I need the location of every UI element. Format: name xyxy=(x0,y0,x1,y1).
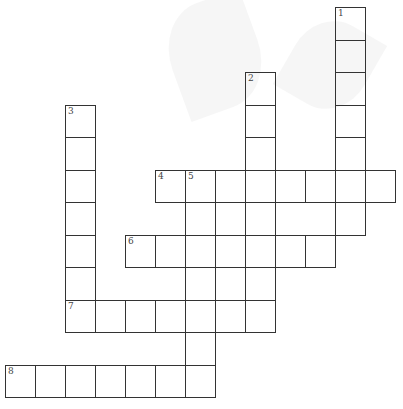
crossword-cell[interactable] xyxy=(245,170,276,204)
crossword-cell[interactable] xyxy=(155,235,186,269)
clue-number: 1 xyxy=(338,9,344,18)
crossword-cell[interactable] xyxy=(245,202,276,236)
crossword-cell[interactable] xyxy=(275,235,306,269)
crossword-cell[interactable] xyxy=(185,332,216,366)
crossword-cell[interactable] xyxy=(95,300,126,334)
crossword-cell[interactable] xyxy=(245,300,276,334)
crossword-cell[interactable] xyxy=(155,300,186,334)
crossword-cell[interactable] xyxy=(155,365,186,399)
clue-number: 3 xyxy=(68,107,74,116)
crossword-cell[interactable] xyxy=(215,300,246,334)
crossword-cell[interactable] xyxy=(335,105,366,139)
crossword-cell[interactable]: 5 xyxy=(185,170,216,204)
crossword-cell[interactable] xyxy=(335,40,366,74)
crossword-cell[interactable] xyxy=(245,105,276,139)
crossword-cell[interactable]: 2 xyxy=(245,72,276,106)
crossword-cell[interactable] xyxy=(365,170,396,204)
crossword-cell[interactable] xyxy=(245,235,276,269)
crossword-cell[interactable] xyxy=(35,365,66,399)
crossword-cell[interactable] xyxy=(245,137,276,171)
crossword-cell[interactable]: 8 xyxy=(5,365,36,399)
crossword-cell[interactable] xyxy=(125,300,156,334)
clue-number: 8 xyxy=(8,367,14,376)
crossword-cell[interactable]: 4 xyxy=(155,170,186,204)
crossword-grid: 12374568 xyxy=(0,0,403,409)
crossword-cell[interactable] xyxy=(305,170,336,204)
clue-number: 2 xyxy=(248,74,254,83)
crossword-cell[interactable] xyxy=(305,235,336,269)
crossword-cell[interactable] xyxy=(65,235,96,269)
crossword-cell[interactable] xyxy=(125,365,156,399)
crossword-cell[interactable] xyxy=(65,365,96,399)
crossword-cell[interactable] xyxy=(215,235,246,269)
crossword-cell[interactable] xyxy=(335,170,366,204)
clue-number: 6 xyxy=(128,237,134,246)
crossword-cell[interactable]: 1 xyxy=(335,7,366,41)
crossword-cell[interactable] xyxy=(95,365,126,399)
crossword-cell[interactable]: 6 xyxy=(125,235,156,269)
crossword-cell[interactable] xyxy=(185,267,216,301)
crossword-cell[interactable] xyxy=(65,267,96,301)
crossword-cell[interactable] xyxy=(335,137,366,171)
clue-number: 5 xyxy=(188,172,194,181)
clue-number: 7 xyxy=(68,302,74,311)
crossword-cell[interactable] xyxy=(185,202,216,236)
crossword-cell[interactable] xyxy=(185,300,216,334)
crossword-cell[interactable] xyxy=(335,72,366,106)
crossword-cell[interactable]: 7 xyxy=(65,300,96,334)
crossword-cell[interactable] xyxy=(275,170,306,204)
crossword-cell[interactable] xyxy=(185,235,216,269)
crossword-cell[interactable] xyxy=(245,267,276,301)
crossword-cell[interactable] xyxy=(335,202,366,236)
crossword-cell[interactable] xyxy=(215,170,246,204)
crossword-cell[interactable] xyxy=(65,202,96,236)
crossword-cell[interactable] xyxy=(65,170,96,204)
crossword-cell[interactable] xyxy=(65,137,96,171)
crossword-cell[interactable] xyxy=(185,365,216,399)
clue-number: 4 xyxy=(158,172,164,181)
crossword-cell[interactable]: 3 xyxy=(65,105,96,139)
